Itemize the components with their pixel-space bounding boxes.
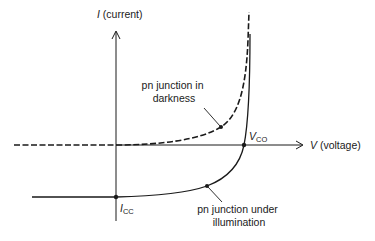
iv-diagram: I (current) V (voltage) VCO ICC pn junct… xyxy=(0,0,375,241)
y-axis-label: I (current) xyxy=(97,8,143,20)
vco-point xyxy=(242,143,246,147)
darkness-label: pn junction in darkness xyxy=(142,79,207,104)
vco-label: VCO xyxy=(249,130,267,144)
illumination-label: pn junction under illumination xyxy=(197,203,280,228)
icc-label: ICC xyxy=(120,202,134,216)
darkness-curve xyxy=(14,12,249,145)
x-axis-label: V (voltage) xyxy=(310,139,361,151)
icc-point xyxy=(114,195,118,199)
illumination-leader xyxy=(208,187,222,202)
darkness-leader xyxy=(204,108,220,126)
illumination-curve xyxy=(32,34,250,197)
